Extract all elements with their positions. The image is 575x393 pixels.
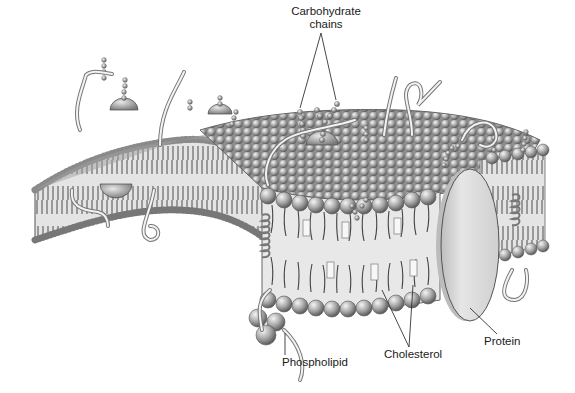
carbohydrate-label-line1: Carbohydrate: [283, 5, 369, 18]
carbohydrate-label-line2: chains: [283, 18, 369, 31]
phospholipid-label: Phospholipid: [282, 356, 348, 369]
cell-membrane-diagram: Carbohydrate chains Phospholipid Cholest…: [0, 0, 575, 393]
bilayer-cross-section: [249, 188, 440, 345]
protein-label: Protein: [484, 335, 520, 348]
integral-protein: [436, 169, 499, 321]
carbohydrate-chains-label: Carbohydrate chains: [283, 5, 369, 31]
cholesterol-label: Cholesterol: [384, 348, 442, 361]
